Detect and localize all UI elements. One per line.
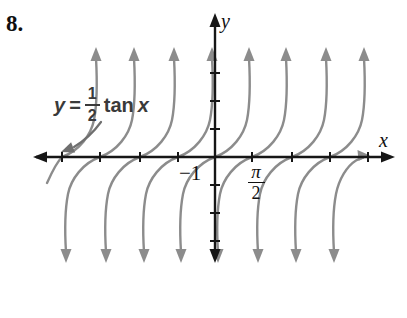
branch-down-arrowhead <box>61 249 72 263</box>
branch-up-arrowhead <box>244 47 255 61</box>
x-axis-left-arrowhead <box>33 152 47 163</box>
equation-fraction: 1 2 <box>85 86 100 124</box>
y-tick-label-neg-one: −1 <box>179 163 201 184</box>
branch-down-arrowhead <box>101 249 112 263</box>
branch-up-arrowhead <box>91 47 102 61</box>
figure-number: 8. <box>6 12 23 35</box>
branch-up-arrowhead <box>169 47 180 61</box>
equation-equals: = <box>69 95 81 115</box>
equation-label: y = 1 2 tan x <box>54 84 149 126</box>
branch-up-arrowhead <box>281 47 292 61</box>
branch-up-arrowhead <box>321 47 332 61</box>
branch-up-arrowhead <box>359 47 370 61</box>
branch-down-arrowhead <box>329 249 340 263</box>
y-axis-label: y <box>221 11 230 31</box>
branch-up-arrowhead <box>129 47 140 61</box>
pi-numerator: π <box>251 162 261 182</box>
branch-down-arrowhead <box>176 249 187 263</box>
pi-denominator: 2 <box>248 182 265 203</box>
x-axis-right-arrowhead <box>381 152 395 163</box>
figure-canvas: 8. y = 1 2 tan x y x −1 π 2 <box>0 0 407 318</box>
branch-down-arrowhead <box>139 249 150 263</box>
fraction-numerator: 1 <box>85 86 100 104</box>
equation-y: y <box>54 95 65 115</box>
equation-function-name: tan <box>104 95 134 115</box>
branch-down-arrowhead <box>291 249 302 263</box>
graph-canvas <box>0 0 407 318</box>
x-axis-label: x <box>379 130 388 150</box>
fraction-denominator: 2 <box>85 104 100 124</box>
label-leader-arrowhead <box>61 142 75 152</box>
y-axis-top-arrowhead <box>210 13 221 27</box>
tangent-branch <box>333 158 363 252</box>
x-tick-label-pi-over-2: π 2 <box>243 162 269 203</box>
equation-argument: x <box>138 95 149 115</box>
branch-down-arrowhead <box>253 249 264 263</box>
